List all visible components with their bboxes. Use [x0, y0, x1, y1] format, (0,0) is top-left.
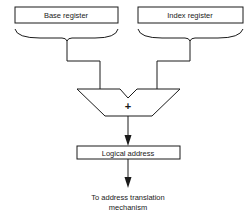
base-register-label: Base register	[44, 11, 89, 20]
arrow-head-icon	[125, 135, 132, 146]
base-register-brace	[15, 29, 118, 41]
index-register-brace	[138, 29, 243, 41]
output-label: To address translation mechanism	[91, 193, 164, 212]
adder-plus-symbol: +	[125, 100, 131, 112]
adder-node: +	[77, 89, 180, 116]
base-to-adder-line	[67, 41, 100, 89]
index-register-node: Index register	[138, 7, 243, 23]
output-label-line2: mechanism	[109, 203, 147, 212]
diagram-canvas: Base register Index register + Logical a…	[0, 0, 251, 218]
logical-address-node: Logical address	[77, 146, 180, 159]
logical-to-output-arrow	[125, 159, 132, 188]
index-register-label: Index register	[167, 11, 213, 20]
logical-address-label: Logical address	[102, 149, 155, 158]
output-label-line1: To address translation	[91, 193, 164, 202]
index-to-adder-line	[157, 41, 190, 89]
arrow-head-icon	[125, 177, 132, 188]
base-register-node: Base register	[15, 7, 118, 23]
adder-to-logical-arrow	[125, 116, 132, 146]
